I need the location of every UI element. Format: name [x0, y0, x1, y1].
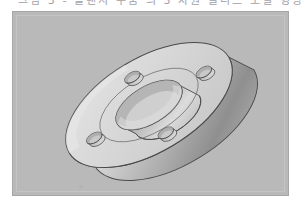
- page-root: 그림 3 ‑ 플랜지 부품 의 3 차원 솔리드 모델 형상: [0, 0, 302, 204]
- caption-strip: 그림 3 ‑ 플랜지 부품 의 3 차원 솔리드 모델 형상: [0, 0, 302, 7]
- flange-3d-drawing: [13, 12, 290, 197]
- figure-caption-text: 그림 3 ‑ 플랜지 부품 의 3 차원 솔리드 모델 형상: [18, 0, 302, 7]
- figure-panel: [12, 11, 289, 196]
